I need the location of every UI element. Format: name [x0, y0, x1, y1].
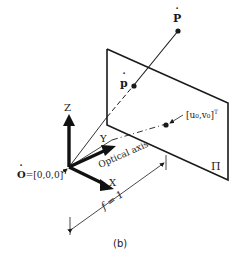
label-image-plane: Π: [211, 160, 221, 173]
label-origin-dot: ·: [20, 160, 23, 170]
label-axis-x: X: [109, 177, 117, 188]
label-focal-length: f = 1: [98, 188, 125, 212]
label-P-world: P: [173, 12, 181, 25]
label-p-image: p: [120, 77, 128, 90]
label-origin: O=[0,0,0]T: [17, 168, 67, 180]
pinhole-camera-diagram: P · p · [u₀,v₀]T Z Y X Optical axis O=[0…: [0, 0, 243, 271]
label-p-image-dot: ·: [123, 68, 126, 78]
principal-point-leader: [170, 115, 183, 123]
label-axis-z: Z: [64, 102, 71, 113]
point-image-p: [131, 83, 136, 88]
principal-point: [163, 122, 168, 127]
label-axis-y: Y: [99, 133, 107, 144]
point-world-P: [175, 28, 180, 33]
projection-ray: [69, 31, 178, 167]
z-arrow-head: [63, 114, 75, 126]
label-principal-point: [u₀,v₀]T: [186, 108, 218, 120]
label-P-world-dot: ·: [176, 3, 179, 13]
figure-caption: (b): [113, 238, 127, 249]
